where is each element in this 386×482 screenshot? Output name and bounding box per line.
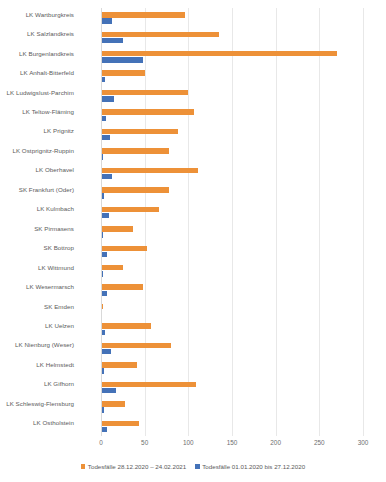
chart-row: SK Pirmasens	[101, 222, 363, 241]
bar-series-1	[101, 284, 143, 289]
bar-series-2	[101, 38, 123, 43]
chart-legend: Todesfälle 28.12.2020 – 24.02.2021Todesf…	[0, 463, 386, 470]
bar-series-1	[101, 70, 145, 75]
category-label: LK Nienburg (Weser)	[15, 341, 74, 349]
x-tick-label: 200	[270, 439, 281, 446]
category-label: SK Bottrop	[44, 244, 74, 252]
category-label: LK Schleswig-Flensburg	[6, 400, 74, 408]
legend-item[interactable]: Todesfälle 28.12.2020 – 24.02.2021	[81, 463, 186, 470]
category-label: LK Salzlandkreis	[27, 30, 74, 38]
chart-row: LK Helmstedt	[101, 358, 363, 377]
category-label: LK Teltow-Fläming	[22, 108, 74, 116]
category-label: LK Wesermarsch	[26, 283, 74, 291]
x-tick-label: 250	[314, 439, 325, 446]
chart-row: LK Nienburg (Weser)	[101, 339, 363, 358]
bar-series-2	[101, 174, 112, 179]
x-tick-label: 0	[99, 439, 103, 446]
category-label: LK Wittmund	[38, 264, 74, 272]
bar-series-2	[101, 96, 114, 101]
bar-chart: LK WartburgkreisLK SalzlandkreisLK Burge…	[0, 0, 386, 482]
bar-series-1	[101, 32, 219, 37]
category-label: LK Uelzen	[45, 322, 74, 330]
chart-row: LK Teltow-Fläming	[101, 105, 363, 124]
chart-row: SK Emden	[101, 300, 363, 319]
legend-label: Todesfälle 01.01.2020 bis 27.12.2020	[202, 463, 305, 470]
x-tick-label: 150	[227, 439, 238, 446]
bar-series-2	[101, 349, 111, 354]
category-label: LK Ostprignitz-Ruppin	[12, 147, 74, 155]
legend-swatch-icon	[195, 464, 200, 469]
bar-series-2	[101, 18, 112, 23]
bar-series-1	[101, 226, 133, 231]
bar-series-1	[101, 265, 123, 270]
bar-series-2	[101, 57, 143, 62]
legend-label: Todesfälle 28.12.2020 – 24.02.2021	[88, 463, 186, 470]
bar-series-1	[101, 148, 169, 153]
category-label: LK Burgenlandkreis	[19, 50, 74, 58]
bar-series-1	[101, 187, 169, 192]
bar-series-1	[101, 246, 147, 251]
category-label: LK Ludwigslust-Parchim	[7, 89, 74, 97]
chart-row: LK Anhalt-Bitterfeld	[101, 66, 363, 85]
chart-row: LK Oberhavel	[101, 164, 363, 183]
chart-row: LK Schleswig-Flensburg	[101, 397, 363, 416]
bar-series-1	[101, 51, 337, 56]
bar-series-1	[101, 109, 194, 114]
category-label: LK Kulmbach	[37, 205, 74, 213]
category-label: LK Oberhavel	[36, 166, 74, 174]
chart-row: LK Burgenlandkreis	[101, 47, 363, 66]
x-axis: 050100150200250300	[101, 439, 363, 451]
chart-row: SK Bottrop	[101, 241, 363, 260]
bar-series-1	[101, 129, 178, 134]
chart-row: LK Ostholstein	[101, 417, 363, 436]
chart-row: LK Salzlandkreis	[101, 27, 363, 46]
bar-series-1	[101, 12, 185, 17]
bar-series-1	[101, 90, 188, 95]
gridline	[363, 8, 364, 436]
category-label: LK Prignitz	[44, 127, 74, 135]
chart-row: LK Gifhorn	[101, 378, 363, 397]
legend-swatch-icon	[81, 464, 86, 469]
x-tick-label: 300	[358, 439, 369, 446]
category-label: LK Gifhorn	[44, 380, 74, 388]
chart-row: LK Ludwigslust-Parchim	[101, 86, 363, 105]
category-label: SK Emden	[44, 303, 74, 311]
bar-series-2	[101, 388, 116, 393]
chart-row: LK Ostprignitz-Ruppin	[101, 144, 363, 163]
bar-series-1	[101, 343, 171, 348]
legend-item[interactable]: Todesfälle 01.01.2020 bis 27.12.2020	[195, 463, 305, 470]
x-tick-label: 100	[183, 439, 194, 446]
chart-row: LK Uelzen	[101, 319, 363, 338]
chart-row: LK Wittmund	[101, 261, 363, 280]
category-label: SK Frankfurt (Oder)	[19, 186, 74, 194]
chart-row: LK Prignitz	[101, 125, 363, 144]
category-label: LK Anhalt-Bitterfeld	[20, 69, 74, 77]
bar-series-1	[101, 421, 139, 426]
bar-series-2	[101, 135, 110, 140]
bar-series-1	[101, 207, 159, 212]
category-label: LK Wartburgkreis	[26, 11, 74, 19]
x-tick-label: 50	[141, 439, 148, 446]
chart-row: LK Wesermarsch	[101, 280, 363, 299]
bar-series-1	[101, 401, 125, 406]
category-label: LK Helmstedt	[36, 361, 74, 369]
y-axis-line	[101, 8, 102, 436]
bar-series-1	[101, 382, 196, 387]
bar-series-1	[101, 323, 151, 328]
category-label: SK Pirmasens	[34, 225, 74, 233]
chart-row: LK Wartburgkreis	[101, 8, 363, 27]
category-label: LK Ostholstein	[33, 419, 74, 427]
chart-row: LK Kulmbach	[101, 203, 363, 222]
bar-series-1	[101, 168, 198, 173]
chart-row: SK Frankfurt (Oder)	[101, 183, 363, 202]
bar-series-1	[101, 362, 137, 367]
bar-series-2	[101, 213, 109, 218]
plot-area: LK WartburgkreisLK SalzlandkreisLK Burge…	[101, 8, 363, 436]
